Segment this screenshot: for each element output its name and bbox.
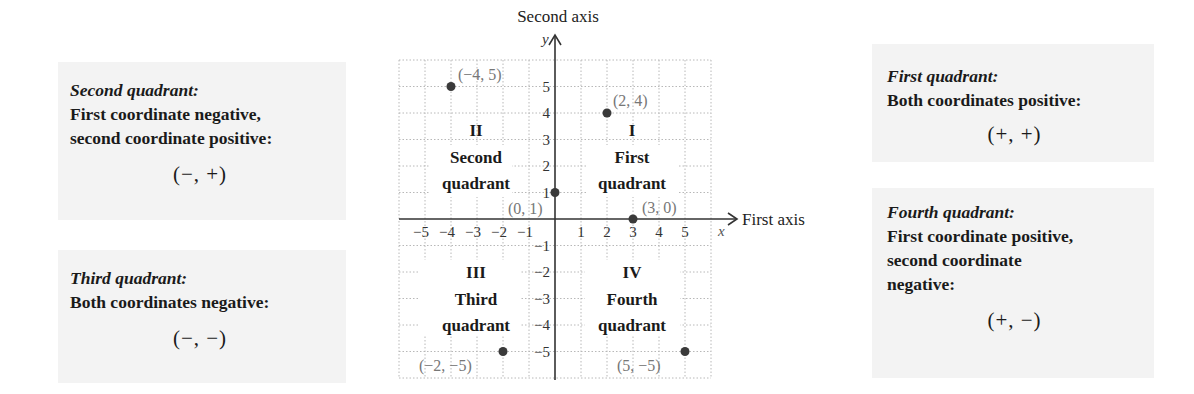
quadrant-IV-numeral: IV [623,263,643,282]
svg-text:−1: −1 [517,224,533,240]
y-axis-var: y [540,31,549,47]
y-axis-title: Second axis [517,7,599,26]
quadrant-I-line2: quadrant [598,174,666,193]
quadrant-III-line2: quadrant [442,316,510,335]
point-label: (−4, 5) [458,66,502,84]
svg-text:−3: −3 [465,224,481,240]
x-tick-labels: −5 −4 −3 −2 −1 1 2 3 4 5 [413,224,689,240]
svg-text:3: 3 [629,224,637,240]
svg-text:−3: −3 [534,291,550,307]
coordinate-plane: Second axis y First axis x −5 −4 −3 −2 −… [0,0,1194,394]
svg-text:5: 5 [681,224,689,240]
x-axis-var: x [717,223,725,239]
svg-text:1: 1 [577,224,585,240]
svg-text:2: 2 [543,158,551,174]
quadrant-III-line1: Third [455,290,498,309]
point-label: (0, 1) [508,200,543,218]
svg-text:2: 2 [603,224,611,240]
quadrant-II-numeral: II [469,121,483,140]
svg-text:4: 4 [543,105,551,121]
point-0-1 [551,188,560,197]
quadrant-I-line1: First [615,148,650,167]
svg-text:−4: −4 [534,317,550,333]
quadrant-II-line2: quadrant [442,174,510,193]
quadrant-II-line1: Second [450,148,503,167]
svg-text:5: 5 [543,79,551,95]
point-5-neg5 [681,347,690,356]
point-label: (3, 0) [642,199,677,217]
svg-text:−1: −1 [534,238,550,254]
point-3-0 [629,215,638,224]
svg-text:4: 4 [655,224,663,240]
svg-text:3: 3 [543,132,551,148]
quadrant-IV-line2: quadrant [598,316,666,335]
svg-text:−4: −4 [439,224,455,240]
point-label: (2, 4) [613,92,648,110]
svg-text:1: 1 [543,185,551,201]
point-label: (5, −5) [617,357,661,375]
point-neg4-5 [447,82,456,91]
svg-text:−2: −2 [491,224,507,240]
quadrant-IV-line1: Fourth [607,290,659,309]
point-neg2-neg5 [499,347,508,356]
point-label: (−2, −5) [419,357,472,375]
svg-text:−5: −5 [534,344,550,360]
svg-text:−5: −5 [413,224,429,240]
quadrant-I-numeral: I [629,121,636,140]
svg-text:−2: −2 [534,264,550,280]
quadrant-III-numeral: III [466,263,486,282]
point-2-4 [603,109,612,118]
x-axis-title: First axis [742,210,805,229]
